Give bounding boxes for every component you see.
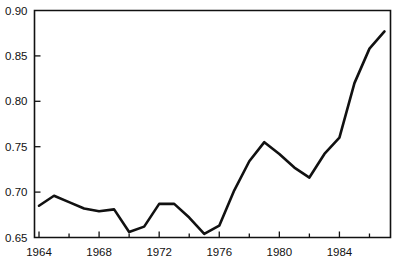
x-tick-label: 1968 <box>86 246 112 258</box>
y-axis-tick-marks <box>35 56 41 192</box>
y-axis-tick-labels: 0.650.700.750.800.850.90 <box>5 5 27 244</box>
data-series-line <box>39 31 384 233</box>
x-tick-label: 1976 <box>206 246 232 258</box>
y-tick-label: 0.70 <box>5 186 27 198</box>
y-tick-label: 0.90 <box>5 5 27 17</box>
x-tick-label: 1980 <box>267 246 293 258</box>
y-tick-label: 0.85 <box>5 50 27 62</box>
y-tick-label: 0.75 <box>5 141 27 153</box>
line-chart: 0.650.700.750.800.850.90 196419681972197… <box>0 0 399 265</box>
plot-frame <box>35 11 391 238</box>
x-tick-label: 1972 <box>146 246 172 258</box>
y-tick-label: 0.80 <box>5 95 27 107</box>
x-tick-label: 1964 <box>26 246 52 258</box>
x-axis-tick-labels: 196419681972197619801984 <box>26 246 353 258</box>
y-tick-label: 0.65 <box>5 232 27 244</box>
chart-container: 0.650.700.750.800.850.90 196419681972197… <box>0 0 399 265</box>
x-tick-label: 1984 <box>327 246 353 258</box>
